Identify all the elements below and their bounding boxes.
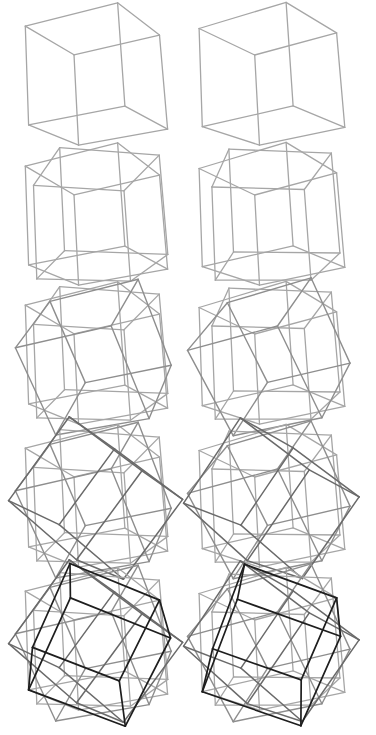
cube-edge: [199, 2, 286, 28]
cube-edge: [125, 246, 168, 269]
cube-edge: [160, 35, 168, 129]
left-eye-view: [9, 417, 183, 579]
cube-edge: [286, 281, 293, 385]
left-eye-view: [25, 3, 167, 145]
cube-edge: [34, 185, 37, 279]
cube-edge: [33, 564, 71, 648]
cube-edge: [125, 106, 168, 129]
cube-edge: [199, 594, 202, 692]
cube-edge: [25, 448, 74, 477]
cube-edge: [199, 308, 202, 406]
cube-edge: [34, 324, 37, 418]
cube-edge: [212, 326, 304, 329]
cube-edge: [60, 148, 65, 251]
cube-edge: [138, 279, 171, 365]
left-eye-view: [9, 560, 183, 726]
right-eye-view: [184, 561, 360, 726]
cube-edge: [260, 127, 345, 145]
cube-edge: [131, 679, 168, 706]
cube-edge: [278, 421, 312, 469]
cube-edge: [286, 424, 293, 528]
cube-edge: [79, 129, 168, 145]
cube-edge: [229, 149, 234, 252]
right-eye-view: [184, 418, 360, 579]
cube-edge: [311, 421, 350, 506]
cube-edge: [131, 536, 168, 563]
row-2-compound-of-2-cubes: [25, 142, 345, 285]
cube-edge: [79, 551, 168, 567]
cube-edge: [124, 155, 159, 191]
cube-edge: [25, 425, 117, 448]
cube-edge: [25, 26, 74, 55]
row-4-compound-of-4-cubes: [9, 417, 360, 579]
cube-edge: [25, 305, 74, 334]
cube-edge: [337, 598, 341, 636]
cube-edge: [212, 469, 304, 472]
cube-edge: [118, 3, 125, 106]
cube-edge: [322, 506, 350, 561]
cube-edge: [234, 534, 340, 535]
cube-edge: [212, 187, 304, 190]
cube-edge: [311, 564, 350, 649]
cube-edge: [255, 477, 260, 567]
cube-edge: [227, 303, 267, 383]
cube-edge: [212, 326, 215, 419]
cube-edge: [260, 267, 345, 285]
cube-edge: [255, 195, 260, 285]
cube-edge: [293, 246, 345, 268]
cube-edge: [15, 491, 55, 578]
cube-edge: [37, 251, 65, 279]
cube-edge: [74, 55, 79, 145]
cube-edge: [15, 348, 55, 435]
cube-edge: [77, 471, 143, 560]
cube-edge: [255, 33, 337, 55]
cube-edge: [188, 350, 234, 435]
right-eye-view: [188, 278, 351, 436]
cube-edge: [25, 448, 28, 547]
compound-cubes-diagram: [0, 0, 376, 735]
cube-edge: [188, 636, 234, 721]
cube-edge: [202, 127, 259, 145]
cube-edge: [74, 195, 79, 285]
cube-edge: [199, 29, 255, 56]
cube-edge: [286, 142, 337, 173]
cube-edge: [25, 3, 117, 26]
cube-edge: [240, 418, 309, 470]
cube-edge: [188, 493, 234, 578]
cube-edge: [131, 393, 168, 420]
cube-edge: [124, 437, 159, 473]
left-eye-view: [25, 143, 168, 285]
row-1-compound-of-1-cubes: [25, 2, 345, 145]
cube-edge: [111, 469, 149, 562]
cube-edge: [286, 142, 293, 246]
cube-edge: [29, 690, 126, 726]
cube-edge: [188, 326, 278, 350]
cube-edge: [234, 677, 340, 678]
cube-edge: [34, 148, 60, 186]
cube-edge: [111, 326, 149, 419]
cube-edge: [74, 334, 79, 424]
cube-edge: [255, 598, 337, 620]
cube-edge: [255, 312, 337, 334]
cube-edge: [131, 254, 168, 281]
cube-edge: [255, 334, 260, 424]
cube-edge: [37, 418, 131, 420]
cube-edge: [233, 382, 267, 435]
cube-edge: [199, 169, 255, 196]
cube-edge: [278, 278, 312, 326]
cube-edge: [15, 634, 55, 721]
cube-edge: [229, 149, 331, 153]
cube-edge: [74, 175, 160, 195]
cube-edge: [212, 187, 215, 280]
cube-edge: [199, 169, 202, 267]
row-3-compound-of-3-cubes: [15, 278, 350, 436]
cube-edge: [74, 477, 79, 567]
cube-edge: [9, 417, 70, 501]
cube-edge: [199, 451, 202, 549]
right-eye-view: [199, 2, 345, 145]
cube-edge: [25, 568, 117, 591]
cube-edge: [202, 246, 293, 267]
cube-edge: [286, 424, 337, 455]
cube-edge: [25, 166, 74, 195]
cube-edge: [29, 125, 79, 145]
